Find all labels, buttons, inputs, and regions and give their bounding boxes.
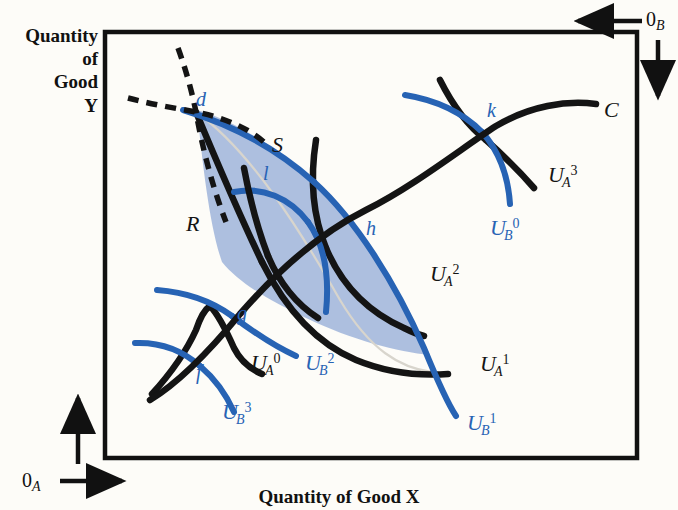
x-axis-title: Quantity of Good X [0,487,678,506]
contract-curve-label-c: C [604,99,619,121]
origin-label-b: 0B [646,9,665,33]
origin-b-base: 0 [646,8,656,30]
point-label-f: f [196,362,202,382]
origin-a-base: 0 [22,469,32,491]
origin-b-subscript: B [656,18,665,33]
y-axis-title-line-2: of [0,47,98,70]
curve-label-UB2: UB2 [305,352,334,378]
edgeworth-box-figure: Quantity of Good Y Quantity of Good X 0A… [0,0,678,510]
curve-label-UA1: UA1 [480,353,509,379]
curve-label-UB1-sup: 1 [489,411,496,426]
point-label-k: k [487,100,496,120]
y-axis-title-line-4: Y [0,94,98,117]
curve-label-UA2-sup: 2 [452,262,459,277]
point-label-d: d [196,89,206,109]
curve-label-UB0-sup: 0 [512,216,519,231]
curve-UB2 [157,290,232,316]
curve-label-UB3-sup: 3 [244,400,251,415]
curve-label-UB0: UB0 [490,217,519,243]
origin-a-subscript: A [32,479,41,494]
curve-label-UB3: UB3 [222,401,251,427]
curve-label-UA3: UA3 [548,164,577,190]
y-axis-title: Quantity of Good Y [0,24,98,117]
price-line-label-s: S [272,134,283,156]
y-axis-title-line-3: Good [0,70,98,93]
curve-label-UA1-sup: 1 [502,352,509,367]
curve-label-UA0-sup: 0 [273,351,280,366]
point-label-g: g [237,303,247,323]
origin-label-a: 0A [22,470,41,494]
y-axis-title-line-1: Quantity [0,24,98,47]
curve-label-UA0: UA0 [251,352,280,378]
price-line-label-r: R [186,213,199,235]
curve-label-UA2: UA2 [430,263,459,289]
curve-label-UA3-sup: 3 [570,163,577,178]
curve-label-UB1: UB1 [467,412,496,438]
point-label-l: l [263,163,269,183]
point-label-h: h [366,218,376,238]
curve-label-UB2-sup: 2 [327,351,334,366]
diagram-canvas [0,0,678,510]
